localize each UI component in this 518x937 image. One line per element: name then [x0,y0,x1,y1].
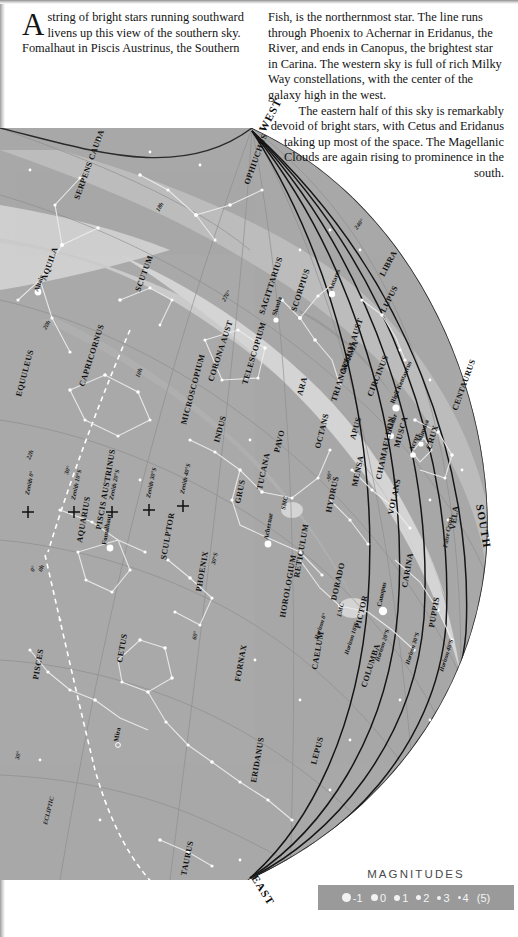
legend-bar: -101234(5) [318,885,514,910]
magnitudes-legend: MAGNITUDES -101234(5) [318,868,514,910]
magnitude-label: 3 [443,892,449,904]
star-chart-map: WESTSOUTHEAST SERPENS CAUDAOPHIUCHUSAQUI… [0,0,518,905]
magnitude-label: 0 [380,892,386,904]
magnitude-dot [437,896,441,900]
legend-title: MAGNITUDES [318,868,514,880]
magnitude-label: 2 [423,892,429,904]
magnitude-dot [394,895,400,901]
magnitude-item: 2 [416,892,429,904]
magnitude-item: 0 [371,892,387,904]
magnitude-label: (5) [477,892,490,904]
magnitude-label: 1 [402,892,408,904]
magnitude-item: (5) [477,892,490,904]
cardinal-label: EAST [249,873,277,905]
magnitude-label: 4 [463,892,469,904]
magnitude-dot [371,894,379,902]
magnitude-item: 3 [437,892,449,904]
magnitude-item: 4 [458,892,469,904]
sky-disk [0,120,518,905]
magnitude-item: -1 [342,892,363,904]
magnitude-dot [458,896,461,899]
cardinal-label: WEST [256,96,284,134]
magnitude-dot [342,893,351,902]
magnitude-dot [416,895,421,900]
magnitude-item: 1 [394,892,408,904]
magnitude-label: -1 [353,892,363,904]
